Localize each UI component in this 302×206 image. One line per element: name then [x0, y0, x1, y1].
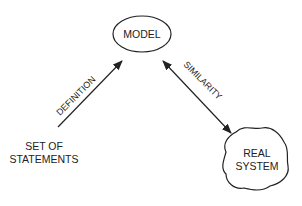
real-system-line1: REAL	[243, 147, 271, 159]
definition-edge: DEFINITION	[54, 61, 122, 127]
real-system-node: REAL SYSTEM	[223, 128, 288, 190]
similarity-label: SIMILARITY	[182, 59, 224, 101]
definition-label: DEFINITION	[54, 74, 97, 117]
statements-line1: SET OF	[25, 140, 63, 152]
model-node: MODEL	[113, 16, 171, 52]
similarity-edge: SIMILARITY	[163, 59, 231, 133]
definition-arrow	[58, 61, 122, 127]
diagram-canvas: MODEL DEFINITION SIMILARITY SET OF STATE…	[0, 0, 302, 206]
statements-node: SET OF STATEMENTS	[9, 140, 78, 165]
model-label: MODEL	[123, 28, 161, 40]
real-system-line2: SYSTEM	[235, 160, 278, 172]
statements-line2: STATEMENTS	[9, 153, 78, 165]
